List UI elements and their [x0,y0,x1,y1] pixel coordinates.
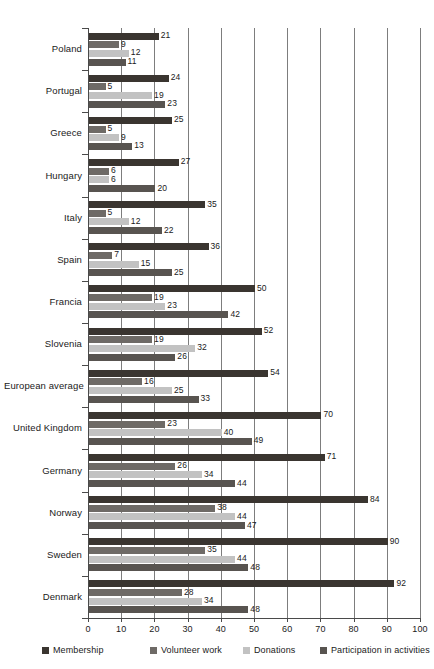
category-label: Italy [4,212,82,223]
category-label: Germany [4,465,82,476]
x-axis-tick [88,618,89,622]
bar [89,429,222,436]
x-axis-tick [354,618,355,622]
legend-item-label: Volunteer work [161,645,222,655]
bar-value-label: 20 [157,183,167,193]
y-axis-group-tick [82,492,88,493]
bar [89,92,152,99]
bar [89,580,394,587]
bar-value-label: 23 [167,98,177,108]
bar-value-label: 44 [237,478,247,488]
bar-value-label: 54 [270,367,280,377]
bar-value-label: 36 [211,241,221,251]
x-axis-tick [154,618,155,622]
bar-value-label: 48 [250,604,260,614]
gridline [287,28,288,618]
category-label: United Kingdom [4,422,82,433]
bar [89,564,248,571]
bar-value-label: 84 [370,494,380,504]
bar-value-label: 23 [167,300,177,310]
legend-item[interactable]: Donations [243,645,295,655]
bar [89,218,129,225]
y-axis-group-tick [82,197,88,198]
bar-value-label: 15 [141,258,151,268]
bar-value-label: 40 [224,427,234,437]
bar-value-label: 25 [174,114,184,124]
bar [89,370,268,377]
bar [89,201,205,208]
bar [89,159,179,166]
bar-value-label: 24 [171,72,181,82]
category-label: Denmark [4,591,82,602]
bar-value-label: 90 [390,536,400,546]
bar-value-label: 11 [128,56,137,66]
bar [89,252,112,259]
bar [89,134,119,141]
legend-item[interactable]: Membership [42,645,104,655]
bar [89,41,119,48]
gridline [221,28,222,618]
bar [89,50,129,57]
bar [89,117,172,124]
bar-value-label: 70 [323,409,333,419]
bar [89,210,106,217]
bar [89,59,126,66]
bar-value-label: 12 [131,216,141,226]
bar-value-label: 21 [161,30,171,40]
bar [89,168,109,175]
bar-value-label: 23 [167,418,177,428]
bar-value-label: 16 [144,376,154,386]
bar-value-label: 49 [254,435,264,445]
bar-value-label: 5 [108,123,113,133]
bar-value-label: 44 [237,511,247,521]
bar-value-label: 26 [177,351,187,361]
category-label: Greece [4,127,82,138]
x-axis-tick-label: 40 [216,624,226,634]
y-axis-group-tick [82,365,88,366]
bar [89,589,182,596]
bar [89,454,325,461]
x-axis-tick [221,618,222,622]
bar-value-label: 27 [181,156,191,166]
y-axis-group-tick [82,70,88,71]
bar [89,176,109,183]
chart-legend: MembershipVolunteer workDonationsPartici… [0,645,434,661]
bar-value-label: 28 [184,587,194,597]
bar [89,496,368,503]
bar [89,387,172,394]
legend-item[interactable]: Participation in activities [320,645,430,655]
x-axis-tick [121,618,122,622]
bar [89,538,388,545]
x-axis-tick [287,618,288,622]
x-axis-tick-label: 10 [116,624,126,634]
legend-item[interactable]: Volunteer work [150,645,222,655]
bar-value-label: 50 [257,283,267,293]
y-axis-group-tick [82,576,88,577]
category-label: Norway [4,507,82,518]
x-axis-tick-label: 30 [182,624,192,634]
bar-value-label: 5 [108,81,113,91]
bar-value-label: 13 [134,140,144,150]
bar-value-label: 32 [197,342,207,352]
bar [89,505,215,512]
bar [89,354,175,361]
bar [89,303,165,310]
x-axis-tick [320,618,321,622]
gridline [420,28,421,618]
x-axis-tick [188,618,189,622]
bar-value-label: 35 [207,544,217,554]
bar [89,606,248,613]
bar-value-label: 35 [207,199,217,209]
bar [89,421,165,428]
legend-swatch-icon [243,647,250,654]
x-axis-tick-label: 0 [85,624,90,634]
x-axis-tick-label: 90 [382,624,392,634]
bar [89,471,202,478]
bar-value-label: 42 [230,309,240,319]
gridline [320,28,321,618]
bar [89,311,228,318]
bar-value-label: 26 [177,460,187,470]
bar [89,522,245,529]
legend-item-label: Participation in activities [331,645,430,655]
bar-value-label: 48 [250,562,260,572]
